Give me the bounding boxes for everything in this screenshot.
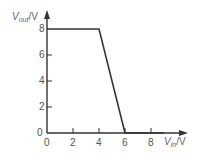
x-axis-title: Vin/V (164, 137, 186, 150)
tick-marks (47, 55, 151, 133)
y-axis-title: Vout/V (12, 12, 38, 25)
x-tick-label: 6 (122, 138, 128, 148)
x-tick-label: 4 (96, 138, 102, 148)
y-axis-arrow-icon (44, 10, 50, 19)
transfer-characteristic-chart: Vout/V Vin/V 02468 02468 (0, 0, 200, 153)
y-tick-label: 2 (39, 102, 45, 112)
y-tick-label: 0 (37, 128, 43, 138)
x-tick-label: 0 (44, 138, 50, 148)
x-tick-label: 2 (70, 138, 76, 148)
y-tick-label: 8 (39, 24, 45, 34)
data-series (47, 29, 164, 133)
y-tick-label: 6 (39, 50, 45, 60)
x-tick-label: 8 (148, 138, 154, 148)
series-line (47, 29, 164, 133)
y-tick-label: 4 (39, 76, 45, 86)
